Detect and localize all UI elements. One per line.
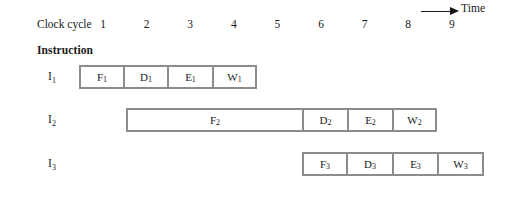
cycle-number: 3: [181, 18, 199, 31]
instruction-stage-row: F3D3E3W3: [302, 152, 484, 176]
instruction-stage-row: F1D1E1W1: [79, 65, 257, 89]
pipeline-stage-box: D2: [303, 108, 348, 132]
pipeline-stage-box: D1: [124, 65, 168, 89]
pipeline-stage-box: W2: [393, 108, 437, 132]
pipeline-stage-box: F3: [302, 152, 347, 176]
pipeline-stage-subscript: 3: [326, 161, 330, 173]
pipeline-stage-subscript: 2: [216, 117, 220, 129]
pipeline-stage-name: E: [365, 114, 372, 126]
pipeline-stage-name: E: [410, 158, 417, 170]
pipeline-stage-subscript: 1: [192, 74, 196, 86]
time-arrow-icon: [421, 6, 461, 18]
pipeline-stage-name: W: [227, 71, 237, 83]
instruction-row-label: I1: [35, 70, 69, 84]
cycle-number: 4: [225, 18, 243, 31]
pipeline-stage-name: W: [407, 114, 417, 126]
pipeline-stage-subscript: 2: [327, 117, 331, 129]
cycle-number: 7: [356, 18, 374, 31]
instruction-row-label: I3: [35, 157, 69, 171]
instruction-row-label-subscript: 2: [52, 119, 56, 128]
cycle-number: 1: [94, 18, 112, 31]
instruction-row-label-subscript: 3: [52, 163, 56, 172]
pipeline-stage-subscript: 1: [148, 74, 152, 86]
pipeline-stage-subscript: 2: [372, 117, 376, 129]
instruction-row-label-subscript: 1: [52, 76, 56, 85]
cycle-number: 5: [268, 18, 286, 31]
pipeline-stage-box: E3: [393, 152, 438, 176]
pipeline-stage-name: D: [364, 158, 372, 170]
pipeline-stage-box: F2: [126, 108, 303, 132]
pipeline-stage-name: W: [453, 158, 463, 170]
instruction-row-label: I2: [35, 113, 69, 127]
pipeline-stage-name: D: [320, 114, 328, 126]
pipeline-stage-subscript: 3: [464, 161, 468, 173]
pipeline-stage-subscript: 1: [238, 74, 242, 86]
pipeline-stage-subscript: 3: [372, 161, 376, 173]
pipeline-stage-name: D: [140, 71, 148, 83]
pipeline-stage-box: W3: [438, 152, 484, 176]
pipeline-stage-box: D3: [347, 152, 393, 176]
pipeline-stage-subscript: 2: [418, 117, 422, 129]
pipeline-stage-subscript: 3: [417, 161, 421, 173]
cycle-number: 9: [443, 18, 461, 31]
cycle-number: 2: [138, 18, 156, 31]
pipeline-stage-box: E1: [168, 65, 213, 89]
time-axis-label: Time: [461, 2, 485, 15]
pipeline-stage-subscript: 1: [103, 74, 107, 86]
cycle-number: 8: [399, 18, 417, 31]
clock-cycle-label: Clock cycle: [37, 18, 92, 31]
instruction-stage-row: F2D2E2W2: [126, 108, 437, 132]
pipeline-stage-box: W1: [213, 65, 257, 89]
pipeline-stage-box: E2: [348, 108, 393, 132]
pipeline-stage-box: F1: [79, 65, 124, 89]
cycle-number: 6: [312, 18, 330, 31]
instruction-heading: Instruction: [37, 44, 93, 57]
pipeline-stage-name: E: [185, 71, 192, 83]
pipeline-diagram: Time Clock cycle 123456789 Instruction I…: [0, 0, 508, 199]
